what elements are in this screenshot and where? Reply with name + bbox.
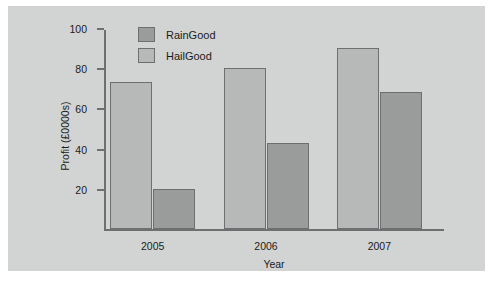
legend-label-hailgood: HailGood <box>166 50 212 62</box>
y-tick-label-20: 20 <box>75 184 87 196</box>
y-tick-40: 40 <box>97 149 104 151</box>
y-tick-80: 80 <box>97 68 104 70</box>
chart-figure: Profit (£0000s) 20406080100 200520062007… <box>8 6 485 271</box>
x-axis-line <box>104 229 444 231</box>
y-axis-line <box>104 30 106 231</box>
y-tick-20: 20 <box>97 189 104 191</box>
bar-hailgood-2006 <box>224 68 266 229</box>
legend-item-raingood: RainGood <box>138 24 216 45</box>
bar-hailgood-2007 <box>337 48 379 229</box>
bar-raingood-2006 <box>267 143 309 229</box>
chart-legend: RainGoodHailGood <box>138 24 216 66</box>
bar-raingood-2005 <box>153 189 195 229</box>
bar-raingood-2007 <box>380 92 422 229</box>
y-tick-label-100: 100 <box>69 23 87 35</box>
legend-swatch-hailgood <box>138 48 155 63</box>
legend-label-raingood: RainGood <box>166 29 216 41</box>
y-tick-label-60: 60 <box>75 103 87 115</box>
y-tick-label-40: 40 <box>75 144 87 156</box>
y-tick-100: 100 <box>97 28 104 30</box>
x-tick-label-2007: 2007 <box>368 240 391 252</box>
x-tick-label-2006: 2006 <box>254 240 277 252</box>
x-axis-title: Year <box>104 258 444 270</box>
legend-item-hailgood: HailGood <box>138 45 216 66</box>
x-tick-label-2005: 2005 <box>141 240 164 252</box>
y-tick-label-80: 80 <box>75 63 87 75</box>
y-axis-title: Profit (£0000s) <box>59 102 71 171</box>
y-tick-60: 60 <box>97 108 104 110</box>
legend-swatch-raingood <box>138 27 155 42</box>
bar-hailgood-2005 <box>110 82 152 229</box>
